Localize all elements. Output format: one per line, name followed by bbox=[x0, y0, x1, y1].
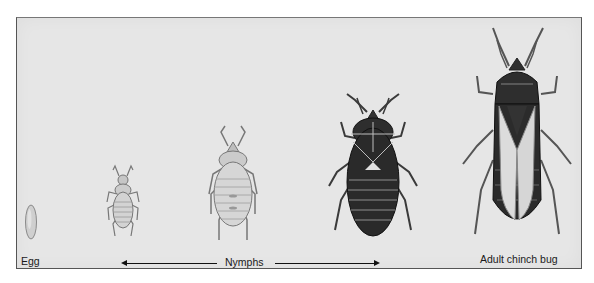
egg-label: Egg bbox=[21, 255, 40, 267]
arrow-right-icon bbox=[374, 260, 380, 266]
nymph-first-instar-illustration bbox=[103, 164, 143, 239]
nymph-second-instar-illustration bbox=[203, 124, 263, 242]
nymph-third-instar-illustration bbox=[323, 90, 423, 242]
nymphs-arrow-left-line bbox=[125, 263, 217, 264]
figure-panel: Egg Nymphs Adult chinch bug bbox=[16, 17, 582, 269]
adult-label: Adult chinch bug bbox=[480, 253, 558, 265]
egg-illustration bbox=[24, 203, 38, 241]
nymphs-label: Nymphs bbox=[225, 256, 264, 268]
adult-chinch-bug-illustration bbox=[457, 20, 577, 242]
nymphs-arrow-right-line bbox=[275, 263, 375, 264]
